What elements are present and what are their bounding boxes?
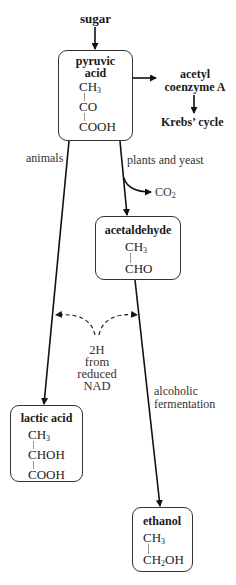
nad-line-4: NAD xyxy=(72,380,122,392)
lactic-acid-formula: CH3 CHOH COOH xyxy=(28,429,82,481)
acetyl-coa-line2: coenzyme A xyxy=(160,81,230,94)
ethanol-title: ethanol xyxy=(143,514,192,529)
lactic-acid-box: lactic acid CH3 CHOH COOH xyxy=(10,405,83,482)
acetaldehyde-title: acetaldehyde xyxy=(96,223,180,238)
ethanol-box: ethanol CH3 CH2OH xyxy=(132,507,193,572)
krebs-cycle-label: Krebs’ cycle xyxy=(161,116,224,128)
nad-label: 2H from reduced NAD xyxy=(72,344,122,392)
formula-ch3: CH3 xyxy=(143,532,192,544)
alcoholic-line-2: fermentation xyxy=(154,398,215,411)
co2-text: CO xyxy=(155,185,172,199)
pyruvic-acid-formula: CH3 CO COOH xyxy=(79,81,132,133)
plants-yeast-label: plants and yeast xyxy=(127,154,204,166)
acetaldehyde-box: acetaldehyde CH3 CHO xyxy=(95,216,181,280)
formula-cooh: COOH xyxy=(28,469,82,481)
pyruvic-acid-box: pyruvic acid CH3 CO COOH xyxy=(58,50,133,141)
alcoholic-fermentation-label: alcoholic fermentation xyxy=(154,385,215,411)
animals-label: animals xyxy=(26,152,63,164)
formula-ch2oh: CH2OH xyxy=(143,554,192,566)
formula-ch3: CH3 xyxy=(125,241,180,253)
co2-subscript: 2 xyxy=(172,191,176,200)
formula-chohh: CHOH xyxy=(28,449,82,461)
ethanol-formula: CH3 CH2OH xyxy=(143,532,192,566)
formula-cho: CHO xyxy=(125,263,180,275)
formula-cooh: COOH xyxy=(79,121,132,133)
lactic-acid-title: lactic acid xyxy=(11,411,82,426)
formula-ch3: CH3 xyxy=(28,429,82,441)
formula-co: CO xyxy=(79,101,132,113)
acetyl-coa-label: acetyl coenzyme A xyxy=(160,68,230,94)
sugar-label: sugar xyxy=(80,12,111,25)
co2-label: CO2 xyxy=(155,186,176,198)
formula-ch3: CH3 xyxy=(79,81,132,93)
acetaldehyde-formula: CH3 CHO xyxy=(125,241,180,275)
pyruvic-acid-title-2: acid xyxy=(59,67,132,79)
